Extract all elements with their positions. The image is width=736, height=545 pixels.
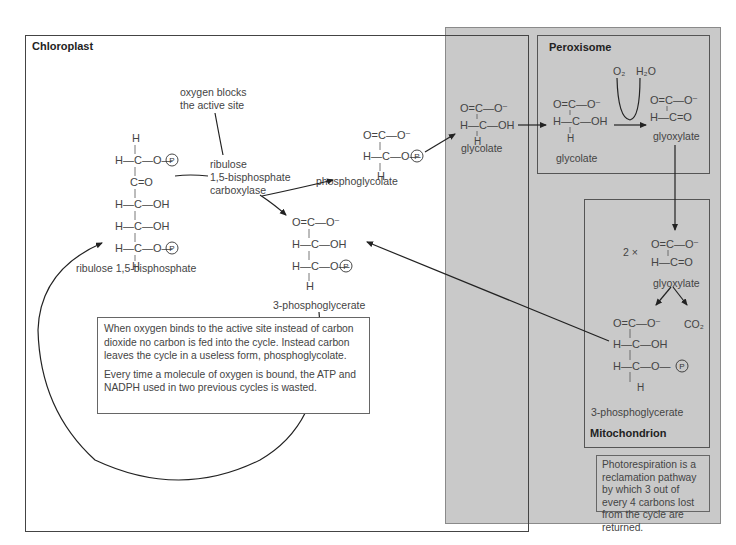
svg-text:H: H [132, 132, 140, 144]
glyoxylate-peroxisome-molecule: O=C—O⁻ H—C=O [650, 94, 698, 123]
svg-text:H—C—OH: H—C—OH [553, 115, 607, 127]
oxygen-binding-note: When oxygen binds to the active site ins… [97, 317, 370, 414]
glycolate-gray-molecule: O=C—O⁻ H—C—OH H [460, 102, 514, 147]
svg-text:H—C—O—: H—C—O— [292, 260, 349, 272]
svg-text:O=C—O⁻: O=C—O⁻ [363, 129, 411, 141]
svg-text:H—C—OH: H—C—OH [292, 238, 346, 250]
rubp-molecule: H H—C—O— C=O H—C—OH H—C—OH H—C—O— H H [115, 132, 172, 276]
svg-text:H—C—O—: H—C—O— [363, 150, 420, 162]
svg-text:H—C—O—: H—C—O— [115, 242, 172, 254]
svg-text:H—C=O: H—C=O [650, 111, 692, 123]
svg-text:O=C—O⁻: O=C—O⁻ [460, 102, 508, 114]
svg-text:H—C—OH: H—C—OH [115, 198, 169, 210]
glyoxylate-mito-molecule: O=C—O⁻ H—C=O [651, 238, 699, 268]
svg-text:H: H [567, 133, 574, 144]
svg-text:H—C—O—: H—C—O— [613, 360, 670, 372]
note-paragraph-2: Every time a molecule of oxygen is bound… [104, 368, 363, 395]
reclamation-note: Photorespiration is a reclamation pathwa… [596, 455, 710, 512]
pga-chloroplast-molecule: O=C—O⁻ H—C—OH H—C—O— H [292, 216, 349, 292]
svg-text:H: H [306, 280, 314, 292]
o2-h2o-curve [617, 78, 640, 120]
svg-text:O=C—O⁻: O=C—O⁻ [650, 94, 698, 106]
glycolate-peroxisome-molecule: O=C—O⁻ H—C—OH H [553, 98, 607, 144]
svg-text:O=C—O⁻: O=C—O⁻ [613, 317, 661, 329]
svg-text:P: P [343, 262, 348, 271]
svg-text:H—C—OH: H—C—OH [460, 119, 514, 131]
pga-mito-molecule: O=C—O⁻ H—C—OH H—C—O— H [613, 317, 670, 393]
svg-text:O=C—O⁻: O=C—O⁻ [292, 216, 340, 228]
svg-text:P: P [169, 244, 174, 253]
arrow-to-3pga [260, 195, 286, 215]
oxygen-pointer-line [215, 113, 223, 155]
svg-text:H—C=O: H—C=O [651, 256, 693, 268]
svg-text:H—C—O—: H—C—O— [115, 154, 172, 166]
svg-text:H: H [637, 382, 644, 393]
svg-text:O=C—O⁻: O=C—O⁻ [553, 98, 601, 110]
svg-text:H: H [132, 260, 140, 272]
svg-text:P: P [414, 152, 419, 161]
svg-text:O=C—O⁻: O=C—O⁻ [651, 238, 699, 250]
phosphoglycolate-molecule: O=C—O⁻ H—C—O— H [363, 129, 420, 182]
svg-text:H: H [474, 136, 481, 147]
svg-text:H—C—OH: H—C—OH [115, 220, 169, 232]
svg-text:C=O: C=O [130, 176, 153, 188]
svg-text:P: P [679, 362, 684, 371]
svg-text:H—C—OH: H—C—OH [613, 338, 667, 350]
arrow-return-3pga [367, 242, 609, 341]
arrow-to-glycolate [425, 134, 455, 152]
arrow-to-phosphoglycolate [262, 180, 333, 196]
note-paragraph-1: When oxygen binds to the active site ins… [104, 322, 363, 363]
svg-text:P: P [169, 156, 174, 165]
svg-text:H: H [377, 170, 385, 182]
